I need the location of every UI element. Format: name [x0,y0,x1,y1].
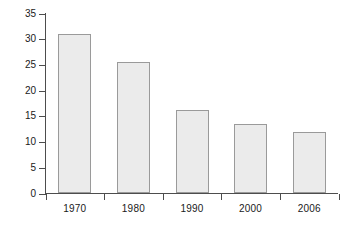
y-axis-tick-label-wrap: 30 [14,39,36,40]
y-axis-tick-label: 15 [14,111,36,121]
x-axis-tick-label: 1990 [162,203,222,214]
y-axis-tick-mark [39,91,46,92]
x-axis-tick-mark [221,194,222,200]
y-axis-tick-label-wrap: 35 [14,14,36,15]
y-axis-tick-label: 0 [14,189,36,199]
x-axis-tick-mark [280,194,281,200]
y-axis-tick-label-wrap: 5 [14,168,36,169]
y-axis-tick-label: 30 [14,34,36,44]
y-axis-tick-label: 25 [14,60,36,70]
y-axis-tick-mark [39,142,46,143]
x-axis-tick-label: 1980 [103,203,163,214]
y-axis-tick-label: 20 [14,86,36,96]
x-axis-tick-mark [104,194,105,200]
y-axis-tick-label-wrap: 20 [14,91,36,92]
y-axis-tick-label: 35 [14,9,36,19]
bar-2000 [234,124,267,194]
y-axis-tick-label-wrap: 25 [14,65,36,66]
x-axis-tick-label: 1970 [45,203,105,214]
bar-1990 [176,110,209,193]
x-axis-tick-mark [163,194,164,200]
y-axis-tick-label-wrap: 0 [14,194,36,195]
x-axis-tick-label: 2000 [221,203,281,214]
y-axis-tick-mark [39,168,46,169]
y-axis-tick-mark [39,39,46,40]
y-axis-tick-mark [39,14,46,15]
y-axis-tick-mark [39,116,46,117]
y-axis-tick-label-wrap: 10 [14,142,36,143]
x-axis-tick-mark [339,194,340,200]
bar-1970 [58,34,91,193]
y-axis-tick-mark [39,65,46,66]
bar-chart-figure: Percent 05101520253035 19701980199020002… [0,0,346,228]
bar-1980 [117,62,150,193]
x-axis-tick-mark [46,194,47,200]
y-axis-tick-label-wrap: 15 [14,116,36,117]
bar-2006 [293,132,326,194]
x-axis-line [45,193,338,194]
y-axis-tick-label: 10 [14,137,36,147]
x-axis-tick-label: 2006 [279,203,339,214]
y-axis-tick-label: 5 [14,163,36,173]
